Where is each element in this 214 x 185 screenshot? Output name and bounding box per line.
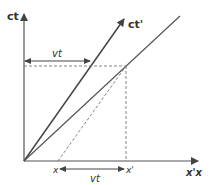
spacetime-diagram: ct ct' x'x vt vt x x' bbox=[0, 0, 214, 185]
x-prime-line bbox=[24, 16, 180, 161]
x-axis-label: x'x bbox=[185, 167, 203, 178]
ct-prime-label: ct' bbox=[128, 18, 143, 31]
x-prime-label: x' bbox=[125, 165, 134, 175]
dashed-diagonal bbox=[58, 66, 126, 161]
vt-bottom-label: vt bbox=[90, 173, 101, 184]
x-label: x bbox=[52, 165, 59, 175]
ct-label: ct bbox=[7, 10, 19, 23]
vt-top-label: vt bbox=[52, 48, 63, 59]
